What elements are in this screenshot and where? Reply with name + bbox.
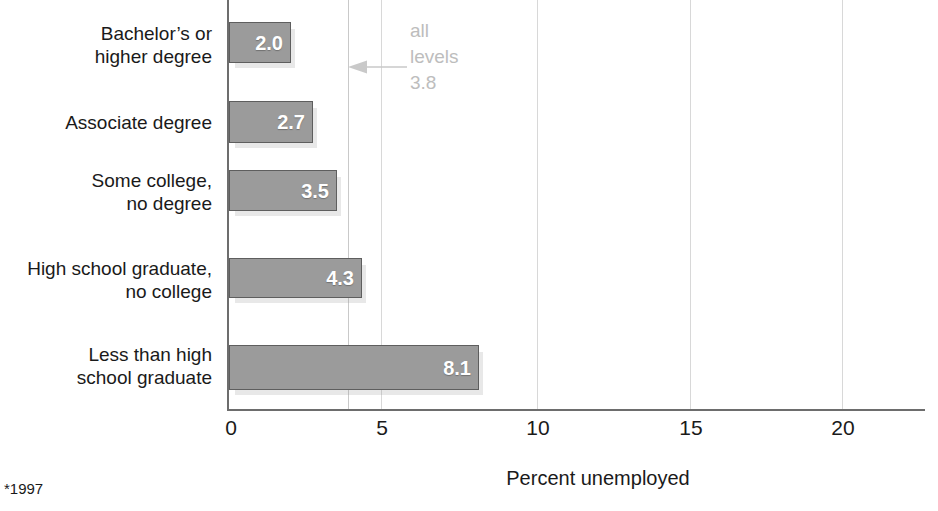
- all-levels-annotation: all levels 3.8: [410, 18, 459, 96]
- category-label-associate: Associate degree: [65, 111, 212, 134]
- category-label-bachelors: Bachelor’s or higher degree: [95, 22, 212, 68]
- x-tick-20: 20: [831, 417, 854, 438]
- category-label-less-than-high-school: Less than high school graduate: [77, 343, 212, 389]
- bar-some-college: 3.5: [229, 170, 337, 211]
- x-tick-5: 5: [376, 417, 388, 438]
- bar-value-some-college: 3.5: [301, 181, 329, 201]
- bar-value-less-than-high-school: 8.1: [443, 358, 471, 378]
- plot-area: Bachelor’s or higher degree Associate de…: [0, 0, 938, 511]
- bar-less-than-high-school: 8.1: [229, 345, 479, 390]
- x-axis-title: Percent unemployed: [0, 468, 938, 488]
- x-axis-line: [227, 409, 925, 411]
- x-axis-title-text: Percent unemployed: [506, 467, 689, 489]
- bar-bachelors: 2.0: [229, 22, 291, 63]
- category-label-some-college: Some college, no degree: [92, 169, 212, 215]
- x-tick-15: 15: [679, 417, 702, 438]
- bar-high-school: 4.3: [229, 258, 362, 298]
- bar-value-bachelors: 2.0: [255, 33, 283, 53]
- chart-figure: Bachelor’s or higher degree Associate de…: [0, 0, 938, 511]
- category-label-high-school: High school graduate, no college: [27, 257, 212, 303]
- bar-value-associate: 2.7: [277, 112, 305, 132]
- x-tick-10: 10: [526, 417, 549, 438]
- gridline-10: [537, 0, 538, 409]
- bar-value-high-school: 4.3: [326, 268, 354, 288]
- footnote: *1997: [4, 481, 43, 496]
- gridline-20: [842, 0, 843, 409]
- x-tick-0: 0: [225, 417, 237, 438]
- all-levels-arrow-icon: [347, 59, 409, 79]
- gridline-15: [690, 0, 691, 409]
- bar-associate: 2.7: [229, 101, 313, 143]
